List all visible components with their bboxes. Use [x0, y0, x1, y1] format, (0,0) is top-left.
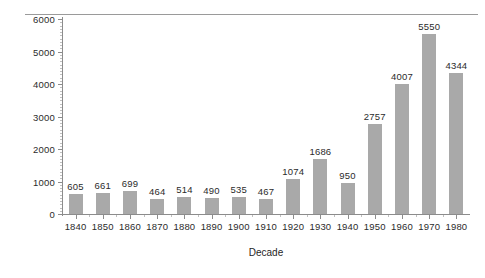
x-axis-minor-tick: [307, 215, 308, 217]
bar-value-label: 4007: [391, 71, 413, 82]
bar-value-label: 464: [149, 186, 165, 197]
x-axis-tick-label: 1970: [418, 221, 440, 232]
x-axis-major-tick: [103, 215, 104, 219]
x-axis-tick-label: 1900: [228, 221, 250, 232]
x-axis-tick-label: 1960: [391, 221, 413, 232]
x-axis-tick-label: 1850: [92, 221, 114, 232]
x-axis-major-tick: [293, 215, 294, 219]
bar-value-label: 467: [258, 186, 274, 197]
x-axis-tick-label: 1910: [255, 221, 277, 232]
bar-value-label: 4344: [445, 60, 467, 71]
x-axis-tick-label: 1930: [309, 221, 331, 232]
x-axis-minor-tick: [89, 215, 90, 217]
x-axis-tick-label: 1840: [65, 221, 87, 232]
y-axis-tick-label: 1000: [33, 176, 55, 187]
x-axis-major-tick: [429, 215, 430, 219]
y-axis-tick-label: 6000: [33, 14, 55, 25]
bar-value-label: 514: [176, 184, 192, 195]
x-axis-tick-label: 1860: [119, 221, 141, 232]
x-axis-major-tick: [239, 215, 240, 219]
x-axis-minor-tick: [144, 215, 145, 217]
x-axis-major-tick: [130, 215, 131, 219]
y-axis-tick-label: 3000: [33, 111, 55, 122]
bar-value-label: 605: [67, 181, 83, 192]
bar-chart-figure: Number 0100020003000400050006000 6056616…: [0, 0, 485, 278]
x-axis-minor-tick: [416, 215, 417, 217]
x-axis-major-tick: [402, 215, 403, 219]
x-axis-minor-tick: [198, 215, 199, 217]
x-axis-major-tick: [456, 215, 457, 219]
x-axis-major-tick: [157, 215, 158, 219]
x-axis-major-tick: [348, 215, 349, 219]
x-axis-major-tick: [266, 215, 267, 219]
x-axis-major-tick: [375, 215, 376, 219]
x-axis-tick-label: 1940: [337, 221, 359, 232]
bar-value-label: 5550: [418, 21, 440, 32]
x-axis-tick-label: 1880: [173, 221, 195, 232]
bar-value-label: 950: [339, 170, 355, 181]
bar-value-label: 1074: [282, 166, 304, 177]
x-axis-tick-label: 1890: [201, 221, 223, 232]
bar-value-label: 2757: [364, 111, 386, 122]
x-axis-minor-tick: [334, 215, 335, 217]
x-axis-major-tick: [76, 215, 77, 219]
figure-top-rule: [25, 14, 478, 15]
x-axis-minor-tick: [116, 215, 117, 217]
x-axis-major-tick: [184, 215, 185, 219]
x-axis-minor-tick: [252, 215, 253, 217]
y-axis-tick-label: 5000: [33, 46, 55, 57]
x-axis-minor-tick: [361, 215, 362, 217]
y-axis-tick-label: 0: [50, 209, 55, 220]
bar-value-label: 535: [231, 184, 247, 195]
x-axis-minor-tick: [280, 215, 281, 217]
x-axis-minor-tick: [388, 215, 389, 217]
y-axis-tick-label: 4000: [33, 79, 55, 90]
x-axis-major-tick: [212, 215, 213, 219]
x-axis-minor-tick: [225, 215, 226, 217]
bar-value-label: 1686: [309, 146, 331, 157]
bar-value-labels: 6056616994645144905354671074168695027574…: [62, 19, 470, 214]
y-axis-tick-label: 2000: [33, 144, 55, 155]
bar-value-label: 661: [95, 180, 111, 191]
x-axis-title: Decade: [62, 247, 470, 258]
x-axis-tick-label: 1870: [146, 221, 168, 232]
x-axis-minor-tick: [171, 215, 172, 217]
y-axis-tick-labels: 0100020003000400050006000: [0, 19, 55, 214]
x-axis-tick-label: 1920: [282, 221, 304, 232]
x-axis-minor-tick: [443, 215, 444, 217]
x-axis-major-tick: [320, 215, 321, 219]
x-axis-tick-labels: 1840185018601870188018901900191019201930…: [62, 221, 470, 235]
bar-value-label: 490: [203, 185, 219, 196]
x-axis-tick-label: 1980: [445, 221, 467, 232]
bar-value-label: 699: [122, 178, 138, 189]
x-axis-tick-label: 1950: [364, 221, 386, 232]
